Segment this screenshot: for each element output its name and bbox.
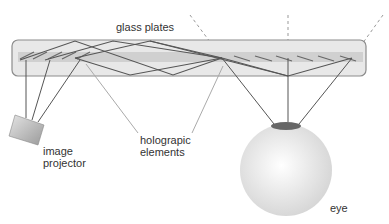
image-projector-label-line2: projector <box>43 157 86 169</box>
holographic-label-line2: elements <box>140 146 191 158</box>
holographic-elements-label: holograpic elements <box>140 134 191 158</box>
waveguide-diagram <box>0 0 389 224</box>
eye-label: eye <box>330 202 348 214</box>
eye-icon <box>240 124 332 216</box>
image-projector-icon <box>9 115 44 145</box>
pupil-icon <box>271 122 301 130</box>
image-projector-label: image projector <box>43 145 86 169</box>
glass-plates-label: glass plates <box>116 21 174 33</box>
image-projector-label-line1: image <box>43 145 86 157</box>
holographic-label-line1: holograpic <box>140 134 191 146</box>
